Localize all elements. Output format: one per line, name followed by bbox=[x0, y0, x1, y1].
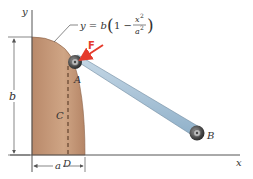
svg-text:y = b: y = b bbox=[79, 20, 107, 31]
equation-leader bbox=[54, 25, 78, 42]
svg-text:1 −: 1 − bbox=[114, 20, 132, 31]
point-d-label: D bbox=[62, 158, 71, 169]
x-axis-label: x bbox=[236, 157, 242, 168]
roller-a bbox=[68, 55, 82, 69]
point-b-label: B bbox=[206, 130, 214, 141]
bar-ab bbox=[72, 55, 201, 137]
dim-a-label: a bbox=[55, 160, 61, 171]
point-a-label: A bbox=[73, 74, 81, 85]
curve-equation: y = b ( 1 − x 2 a 2 ) bbox=[79, 12, 154, 36]
dim-b-label: b bbox=[9, 90, 16, 103]
svg-text:): ) bbox=[147, 15, 154, 35]
svg-text:2: 2 bbox=[140, 24, 144, 31]
parabolic-region bbox=[32, 37, 85, 155]
svg-text:2: 2 bbox=[140, 12, 144, 19]
svg-text:(: ( bbox=[107, 15, 114, 35]
y-axis-label: y bbox=[21, 6, 28, 17]
mechanism-diagram: y x C D b a A B F y = b ( 1 − x 2 bbox=[0, 0, 253, 179]
force-label: F bbox=[88, 40, 95, 51]
roller-b bbox=[190, 126, 205, 141]
point-c-label: C bbox=[56, 110, 64, 121]
